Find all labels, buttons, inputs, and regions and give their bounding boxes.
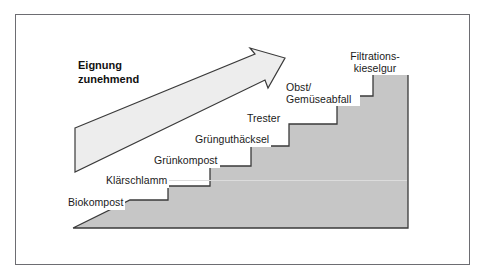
step-label-trester: Trester <box>245 112 282 126</box>
step-label-gruenkompost: Grünkompost <box>152 154 220 168</box>
arrow-caption: Eignung zunehmend <box>78 59 139 86</box>
step-label-gruenguthaecksel: Grünguthäcksel <box>193 133 271 147</box>
step-label-klaerschlamm: Klärschlamm <box>104 174 169 188</box>
step-label-obst-line2: Gemüseabfall <box>286 93 351 105</box>
step-label-biokompost: Biokompost <box>66 196 125 210</box>
step-label-obst-gemueseabfall: Obst/ Gemüseabfall <box>284 81 360 106</box>
step-label-obst-line1: Obst/ <box>286 81 311 93</box>
figure-root: Eignung zunehmend Biokompost Klärschlamm… <box>0 0 488 278</box>
step-label-filtrationskieselgur: Filtrations- kieselgur <box>340 50 410 75</box>
step-label-filtration-line1: Filtrations- <box>350 50 400 62</box>
step-label-filtration-line2: kieselgur <box>354 62 396 74</box>
